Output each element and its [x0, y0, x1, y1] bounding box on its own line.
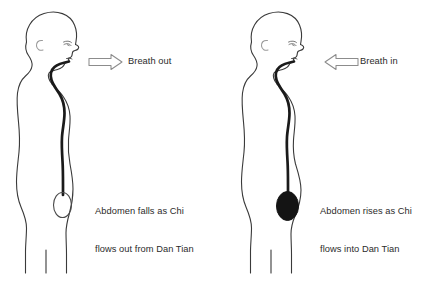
- breath-out-arrow-icon: [89, 55, 122, 70]
- mouth-line: [67, 58, 73, 59]
- inhale-caption: Abdomen rises as Chi flows into Dan Tian: [320, 180, 412, 281]
- dan-tian-filled: [277, 192, 299, 221]
- exhale-caption: Abdomen falls as Chi flows out from Dan …: [95, 180, 194, 281]
- eye-pupil-mark: [68, 45, 70, 46]
- head-profile-outline: [251, 12, 304, 64]
- figure-back-outline: [17, 42, 33, 273]
- eyebrow-line: [289, 41, 297, 42]
- inhale-caption-line-2: flows into Dan Tian: [320, 243, 412, 256]
- breath-out-label: Breath out: [128, 55, 171, 67]
- breath-in-label: Breath in: [360, 55, 398, 67]
- head-profile-outline: [26, 12, 79, 64]
- eye-pupil-mark: [293, 45, 295, 46]
- diagram-canvas: Breath out Breath in Abdomen falls as Ch…: [0, 0, 445, 286]
- figure-back-outline: [242, 42, 258, 273]
- inhale-caption-line-1: Abdomen rises as Chi: [320, 205, 412, 218]
- chi-channel-path: [51, 62, 69, 196]
- exhale-caption-line-1: Abdomen falls as Chi: [95, 205, 194, 218]
- ear-icon: [36, 40, 43, 50]
- ear-icon: [261, 40, 268, 50]
- exhale-caption-line-2: flows out from Dan Tian: [95, 243, 194, 256]
- mouth-line: [292, 58, 298, 59]
- chi-channel-path: [276, 62, 294, 194]
- eyebrow-line: [64, 41, 72, 42]
- breath-in-arrow-icon: [325, 55, 358, 70]
